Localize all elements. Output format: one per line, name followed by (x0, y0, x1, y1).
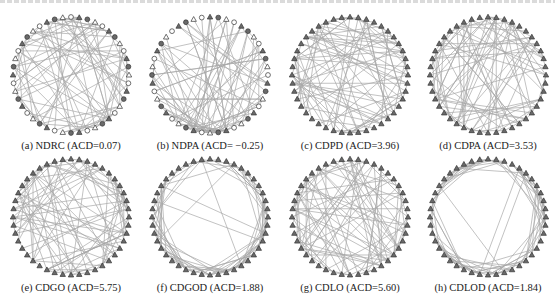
triangle-node-icon (529, 34, 534, 39)
circle-node-icon (126, 81, 131, 86)
triangle-node-icon (16, 238, 21, 243)
triangle-node-icon (150, 206, 155, 211)
triangle-node-icon (60, 157, 65, 162)
triangle-node-icon (303, 110, 308, 115)
triangle-node-icon (347, 14, 352, 19)
network-graph (281, 151, 419, 283)
cropped-text-line (0, 0, 555, 3)
triangle-node-icon (529, 252, 534, 257)
circle-node-icon (246, 116, 251, 121)
triangle-node-icon (433, 190, 438, 195)
triangle-node-icon (163, 252, 168, 257)
network-panel-f: (f) CDGOD (ACD=1.88) (141, 151, 279, 296)
triangle-node-icon (331, 128, 336, 133)
triangle-node-icon (260, 48, 265, 53)
circle-node-icon (112, 111, 117, 116)
circle-node-icon (263, 89, 268, 94)
triangle-node-icon (405, 214, 410, 219)
circle-node-icon (85, 128, 90, 133)
triangle-node-icon (44, 267, 49, 272)
triangle-node-icon (469, 159, 474, 164)
triangle-node-icon (169, 170, 174, 175)
circle-node-icon (16, 97, 21, 102)
triangle-node-icon (534, 246, 539, 251)
triangle-node-icon (485, 156, 490, 161)
circle-node-icon (232, 125, 237, 130)
triangle-node-icon (364, 17, 369, 22)
triangle-node-icon (371, 161, 376, 166)
circle-node-icon (199, 15, 204, 20)
triangle-node-icon (150, 64, 155, 69)
triangle-node-icon (543, 206, 548, 211)
network-panel-d: (d) CDPA (ACD=3.53) (419, 9, 555, 154)
nodes (427, 156, 548, 277)
triangle-node-icon (437, 183, 442, 188)
triangle-node-icon (176, 23, 181, 28)
triangle-node-icon (461, 19, 466, 24)
triangle-node-icon (339, 15, 344, 20)
triangle-node-icon (509, 19, 514, 24)
circle-node-icon (256, 104, 261, 109)
network-graph (141, 9, 279, 141)
circle-node-icon (266, 73, 271, 78)
circle-node-icon (256, 41, 261, 46)
triangle-node-icon (239, 23, 244, 28)
triangle-node-icon (126, 72, 131, 77)
triangle-node-icon (106, 170, 111, 175)
triangle-node-icon (10, 72, 15, 77)
edges (292, 159, 408, 275)
triangle-node-icon (216, 157, 221, 162)
circle-node-icon (37, 24, 42, 29)
triangle-node-icon (534, 41, 539, 46)
triangle-node-icon (191, 159, 196, 164)
triangle-node-icon (68, 156, 73, 161)
circle-node-icon (216, 15, 221, 20)
edges (13, 159, 129, 275)
network-graph (419, 9, 555, 141)
triangle-node-icon (391, 110, 396, 115)
circle-node-icon (69, 131, 74, 136)
circle-node-icon (184, 20, 189, 25)
circle-node-icon (85, 17, 90, 22)
circle-node-icon (52, 17, 57, 22)
triangle-node-icon (24, 252, 29, 257)
triangle-node-icon (77, 157, 82, 162)
triangle-node-icon (224, 159, 229, 164)
triangle-node-icon (117, 104, 122, 109)
circle-node-icon (69, 15, 74, 20)
triangle-node-icon (356, 15, 361, 20)
triangle-node-icon (461, 161, 466, 166)
triangle-node-icon (30, 28, 35, 33)
circle-node-icon (112, 35, 117, 40)
circle-node-icon (121, 49, 126, 54)
panel-caption: (b) NDPA (ACD= −0.25) (141, 140, 279, 151)
circle-node-icon (37, 121, 42, 126)
triangle-node-icon (391, 176, 396, 181)
triangle-node-icon (517, 23, 522, 28)
circle-node-icon (150, 73, 155, 78)
network-panel-c: (c) CDPD (ACD=3.96) (281, 9, 419, 154)
network-graph (2, 9, 140, 141)
edges (430, 159, 546, 275)
network-panel-e: (e) CDGO (ACD=5.75) (2, 151, 140, 296)
network-panel-b: (b) NDPA (ACD= −0.25) (141, 9, 279, 154)
edges (430, 17, 546, 133)
triangle-node-icon (251, 176, 256, 181)
triangle-node-icon (323, 161, 328, 166)
triangle-node-icon (163, 34, 168, 39)
triangle-node-icon (538, 48, 543, 53)
circle-node-icon (246, 29, 251, 34)
triangle-node-icon (245, 170, 250, 175)
panel-caption: (h) CDLOD (ACD=1.84) (419, 282, 555, 293)
panel-caption: (e) CDGO (ACD=5.75) (2, 282, 140, 293)
circle-node-icon (11, 64, 16, 69)
triangle-node-icon (339, 157, 344, 162)
panel-caption: (g) CDLO (ACD=5.60) (281, 282, 419, 293)
edges (152, 17, 268, 133)
triangle-node-icon (126, 214, 131, 219)
circle-node-icon (25, 35, 30, 40)
circle-node-icon (52, 128, 57, 133)
triangle-node-icon (112, 176, 117, 181)
triangle-node-icon (494, 157, 499, 162)
triangle-node-icon (290, 222, 295, 227)
